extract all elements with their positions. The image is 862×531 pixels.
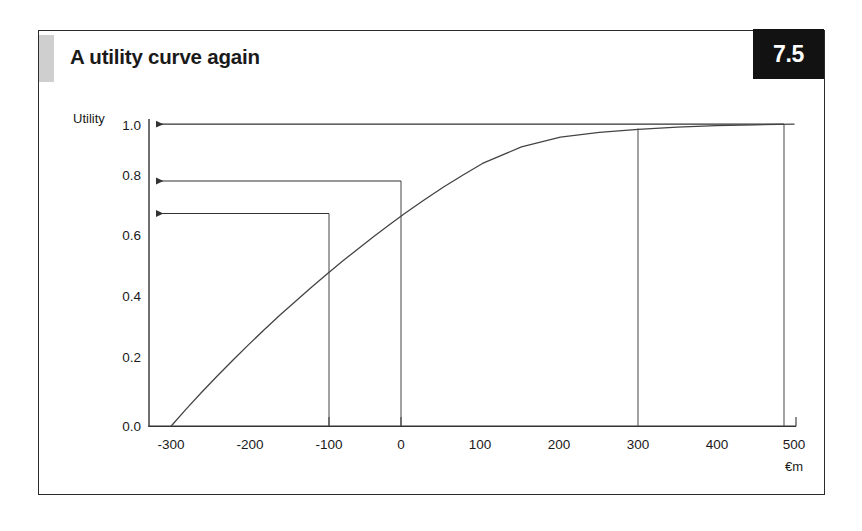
x-tick-label-minus-100: -100 (315, 437, 342, 452)
x-tick-label-minus-300: -300 (157, 437, 184, 452)
drop-lines (329, 124, 784, 426)
x-axis-tick-labels: -300 -200 -100 0 100 200 300 400 500 (157, 437, 805, 452)
x-tick-label-200: 200 (548, 437, 571, 452)
y-tick-label-0-2: 0.2 (122, 350, 141, 365)
x-tick-label-300: 300 (627, 437, 650, 452)
x-axis-unit-label: €m (785, 459, 803, 474)
utility-curve-chart: 1.0 0.8 0.6 0.4 0.2 0.0 Utility -300 -20… (39, 31, 826, 496)
y-tick-label-0-6: 0.6 (122, 228, 141, 243)
x-tick-label-minus-200: -200 (236, 437, 263, 452)
y-tick-label-0-4: 0.4 (122, 289, 141, 304)
x-tick-label-100: 100 (469, 437, 492, 452)
figure-frame: A utility curve again 7.5 (38, 30, 825, 495)
y-tick-label-0-8: 0.8 (122, 168, 141, 183)
y-tick-label-1-0: 1.0 (122, 118, 141, 133)
figure-root: A utility curve again 7.5 (0, 0, 862, 531)
y-axis-title: Utility (73, 111, 105, 126)
chart-area: 1.0 0.8 0.6 0.4 0.2 0.0 Utility -300 -20… (39, 31, 826, 496)
y-tick-label-0-0: 0.0 (122, 419, 141, 434)
x-tick-label-0: 0 (397, 437, 405, 452)
x-tick-label-500: 500 (783, 437, 806, 452)
x-tick-label-400: 400 (706, 437, 729, 452)
utility-arrows (156, 124, 784, 213)
chart-axes (148, 119, 796, 427)
utility-curve-line (171, 124, 794, 426)
y-axis-tick-labels: 1.0 0.8 0.6 0.4 0.2 0.0 (122, 118, 141, 435)
